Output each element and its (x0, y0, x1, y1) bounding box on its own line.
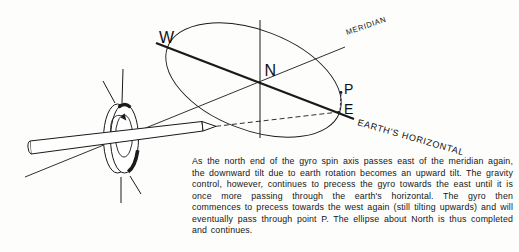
label-earths-horizontal: EARTH'S HORIZONTAL (356, 117, 465, 157)
scanned-figure-page: W N P E MERIDIAN EARTH'S HORIZONTAL As t… (0, 0, 519, 252)
label-east: E (344, 101, 353, 117)
point-p-dot (340, 91, 343, 94)
spin-axis-dashed-extension (216, 112, 339, 126)
spin-axis-pencil-tip (202, 122, 216, 132)
label-point-p: P (344, 81, 353, 97)
figure-caption: As the north end of the gyro spin axis p… (192, 156, 513, 237)
label-meridian: MERIDIAN (345, 15, 388, 37)
label-north: N (265, 62, 277, 79)
gimbal-axis-tick (130, 176, 141, 194)
gimbal-axis-tick (122, 69, 123, 103)
point-e-dot (338, 111, 341, 114)
earths-horizontal-line (156, 43, 354, 119)
label-west: W (159, 29, 175, 46)
gimbal-axis-tick (103, 81, 115, 103)
